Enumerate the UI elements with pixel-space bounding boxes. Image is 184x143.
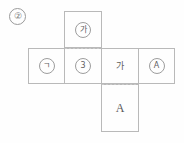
net-cell-middle-1-label: ㄱ [39, 58, 55, 74]
diagram-screenshot: ② 가 ㄱ 3 가 A A [0, 0, 184, 143]
net-cell-middle-1: ㄱ [28, 48, 65, 84]
net-cell-middle-4-label: A [149, 58, 165, 74]
net-cell-top-label: 가 [75, 22, 91, 38]
net-cell-middle-3: 가 [101, 48, 139, 84]
net-cell-bottom-label: A [116, 102, 125, 114]
cube-net-diagram: 가 ㄱ 3 가 A A [0, 0, 184, 143]
net-cell-top: 가 [64, 11, 102, 48]
net-cell-middle-2-label: 3 [75, 58, 91, 74]
net-cell-middle-4: A [138, 48, 175, 84]
fold-line-top [65, 48, 101, 49]
net-cell-middle-3-label: 가 [116, 62, 124, 71]
net-cell-bottom: A [101, 84, 139, 132]
fold-line-bottom [102, 84, 138, 85]
net-cell-middle-2: 3 [64, 48, 102, 84]
